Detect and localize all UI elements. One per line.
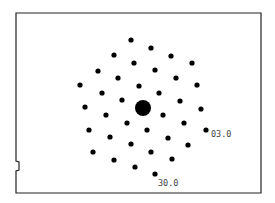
diffraction-spot xyxy=(152,67,157,72)
diffraction-spot xyxy=(128,37,133,42)
index-label-03: 03.0 xyxy=(211,129,231,139)
diffraction-spot xyxy=(119,97,124,102)
diffraction-spot xyxy=(103,112,108,117)
diffraction-spot xyxy=(99,90,104,95)
diffraction-spot xyxy=(124,120,129,125)
diffraction-spot xyxy=(169,156,174,161)
diffraction-spot xyxy=(165,135,170,140)
diffraction-spot xyxy=(86,127,91,132)
diffraction-spot xyxy=(131,60,136,65)
diffraction-spot xyxy=(82,104,87,109)
diffraction-spot xyxy=(173,75,178,80)
diffraction-spot xyxy=(148,149,153,154)
diffraction-spot xyxy=(95,68,100,73)
diffraction-spot xyxy=(111,157,116,162)
diffraction-spot xyxy=(144,127,149,132)
diffraction-spot xyxy=(90,149,95,154)
diffraction-spot xyxy=(111,52,116,57)
diffraction-spot xyxy=(177,98,182,103)
diffraction-spot xyxy=(132,164,137,169)
diffraction-spot xyxy=(115,75,120,80)
diffraction-spot xyxy=(189,60,194,65)
diffraction-spot xyxy=(77,82,82,87)
diffraction-spot xyxy=(194,82,199,87)
center-spot xyxy=(135,100,151,116)
diffraction-spot xyxy=(181,120,186,125)
diffraction-spot xyxy=(136,83,141,88)
diffraction-spot xyxy=(168,53,173,58)
diffraction-spot xyxy=(203,127,208,132)
diffraction-spot xyxy=(148,45,153,50)
diffraction-spot xyxy=(198,106,203,111)
index-label-30: 30.0 xyxy=(158,178,178,188)
diffraction-spot xyxy=(152,171,157,176)
diffraction-spot xyxy=(156,90,161,95)
diffraction-spot xyxy=(107,134,112,139)
diffraction-pattern: 03.0 30.0 xyxy=(0,0,275,203)
diffraction-spot xyxy=(185,142,190,147)
diffraction-spot xyxy=(128,141,133,146)
diffraction-spot xyxy=(160,112,165,117)
